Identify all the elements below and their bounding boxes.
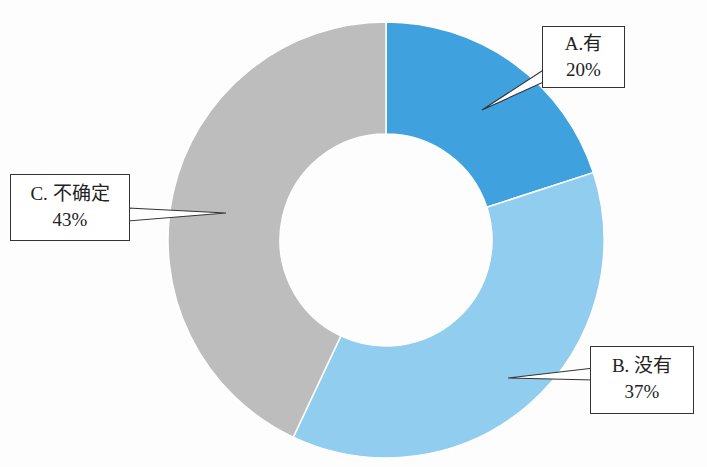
callout-b-name: B. 没有 [591, 353, 693, 379]
callout-a-value: 20% [543, 57, 624, 83]
callout-a: A.有 20% [542, 26, 625, 88]
callout-b-value: 37% [591, 379, 693, 405]
donut-slice-b [293, 173, 604, 458]
callout-c-value: 43% [11, 207, 129, 233]
callout-c: C. 不确定 43% [10, 174, 130, 241]
callout-b: B. 没有 37% [590, 346, 694, 414]
callout-a-name: A.有 [543, 31, 624, 57]
donut-slices [168, 22, 604, 458]
callout-c-name: C. 不确定 [11, 181, 129, 207]
